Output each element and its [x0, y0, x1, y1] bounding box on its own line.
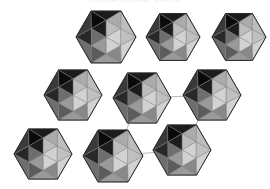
- icosahedron: [113, 73, 171, 123]
- icosahedron: [14, 129, 72, 179]
- icosahedron: [212, 14, 266, 61]
- icosahedron: [83, 130, 143, 182]
- shape-layer: [14, 11, 266, 182]
- icosahedron: [44, 70, 102, 120]
- icosahedron: [146, 14, 200, 61]
- icosahedron: [153, 125, 211, 175]
- figure-canvas: ICOSAHEDRAL UNITS: [0, 0, 270, 189]
- icosahedron: [76, 11, 136, 63]
- icosahedron: [183, 70, 241, 120]
- icosahedra-diagram: [0, 0, 270, 189]
